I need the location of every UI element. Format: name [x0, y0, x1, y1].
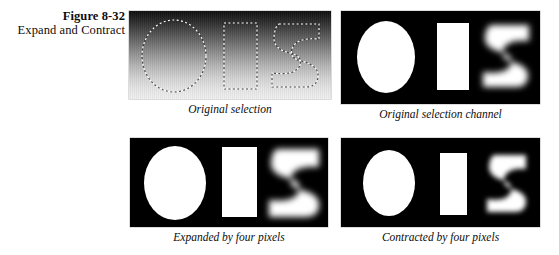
mask-shape-rectangle [222, 147, 257, 217]
mask-shape-ellipse [144, 146, 206, 220]
mask-shape-ellipse [357, 21, 415, 93]
panel-contracted-four-pixels: Contracted by four pixels [341, 138, 540, 244]
selection-outlines [129, 11, 331, 99]
figure-title: Expand and Contract [0, 23, 125, 37]
panel-contracted-four-pixels-figure: Contracted by four pixels [341, 138, 540, 244]
panel-original-selection-channel: Original selection channel [341, 11, 540, 121]
figure-label-block: Figure 8-32 Expand and Contract [0, 9, 125, 37]
panel-caption-original-selection-channel: Original selection channel [341, 107, 540, 121]
panel-image-expanded [130, 138, 328, 227]
mask-channel-contracted [341, 138, 540, 227]
mask-shape-rectangle [437, 23, 469, 90]
panel-original-selection-figure: Original selection [129, 11, 331, 116]
mask-shape-ellipse [363, 150, 415, 216]
panel-caption-contracted-four-pixels: Contracted by four pixels [341, 230, 540, 244]
mask-shape-rectangle [440, 153, 467, 215]
mask-channel-expanded [130, 138, 328, 227]
panel-image-original-selection-channel [341, 11, 540, 104]
mask-channel-original [341, 11, 540, 104]
panel-image-contracted [341, 138, 540, 227]
panel-image-original-selection [129, 11, 331, 99]
figure-number: Figure 8-32 [0, 9, 125, 23]
panel-caption-original-selection: Original selection [129, 102, 331, 116]
panel-expanded-four-pixels: Expanded by four pixels [130, 138, 328, 244]
panel-expanded-four-pixels-figure: Expanded by four pixels [130, 138, 328, 244]
panel-original-selection-channel-figure: Original selection channel [341, 11, 540, 121]
panel-caption-expanded-four-pixels: Expanded by four pixels [130, 230, 328, 244]
panel-original-selection: Original selection [129, 11, 331, 116]
